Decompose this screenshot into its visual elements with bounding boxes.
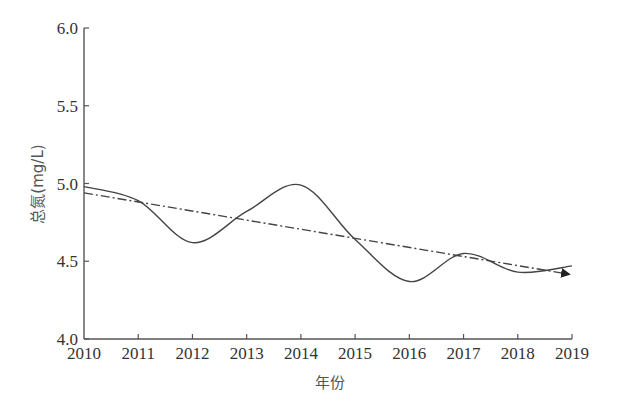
y-axis-title: 总氮(mg/L) bbox=[29, 144, 47, 223]
chart: 4.04.55.05.56.0 201020112012201320142015… bbox=[0, 0, 620, 420]
x-tick-label: 2013 bbox=[230, 344, 264, 363]
y-tick-label: 4.5 bbox=[57, 252, 78, 271]
x-tick-label: 2016 bbox=[392, 344, 426, 363]
x-axis-title: 年份 bbox=[315, 374, 345, 392]
x-tick-label: 2015 bbox=[338, 344, 372, 363]
total-nitrogen-line bbox=[84, 184, 572, 281]
x-tick-label: 2010 bbox=[67, 344, 101, 363]
y-tick-label: 6.0 bbox=[57, 19, 78, 38]
x-tick-label: 2019 bbox=[555, 344, 589, 363]
x-tick-label: 2014 bbox=[284, 344, 319, 363]
axes bbox=[84, 28, 572, 339]
x-tick-label: 2011 bbox=[122, 344, 155, 363]
y-tick-label: 5.0 bbox=[57, 175, 78, 194]
x-tick-label: 2017 bbox=[447, 344, 482, 363]
x-tick-label: 2018 bbox=[501, 344, 535, 363]
y-tick-label: 5.5 bbox=[57, 97, 78, 116]
x-tick-label: 2012 bbox=[175, 344, 209, 363]
